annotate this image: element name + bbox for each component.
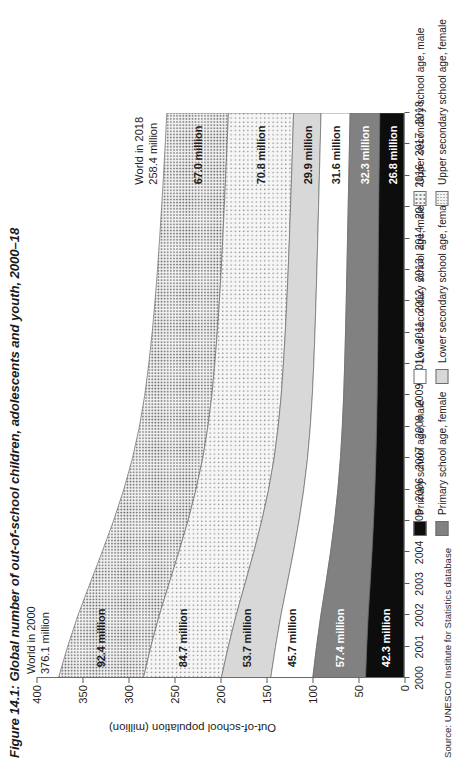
callout-world-2018: World in 2018258.4 million xyxy=(132,117,160,185)
legend-item[interactable]: Primary school age, male xyxy=(408,392,430,536)
series-end-value-label: 32.3 million xyxy=(358,126,370,185)
series-end-value-label: 70.8 million xyxy=(254,126,266,185)
y-tick-label: 250 xyxy=(168,685,180,704)
y-tick-label: 350 xyxy=(76,685,88,704)
x-tick-label: 2000 xyxy=(412,666,424,690)
chart-canvas: 050100150200250300350400 200020012002200… xyxy=(36,113,404,678)
legend-column: Lower secondary school age, maleLower se… xyxy=(408,197,452,384)
y-tick-label: 50 xyxy=(352,685,364,697)
legend-swatch-icon xyxy=(413,521,426,536)
x-tick-mark xyxy=(404,614,409,615)
series-start-value-label: 53.7 million xyxy=(240,609,252,668)
legend-label: Lower secondary school age, male xyxy=(414,206,425,363)
figure-page: Figure 14.1: Global number of out-of-sch… xyxy=(0,0,463,764)
series-start-value-label: 45.7 million xyxy=(285,609,297,668)
series-end-value-label: 31.6 million xyxy=(329,126,341,185)
y-tick-label: 200 xyxy=(214,685,226,704)
x-tick-mark xyxy=(404,551,409,552)
x-tick-label: 2002 xyxy=(412,603,424,627)
y-tick-mark xyxy=(404,678,405,683)
source-note: Source: UNESCO Institute for Statistics … xyxy=(441,548,452,758)
x-tick-mark xyxy=(404,677,409,678)
legend-item[interactable]: Lower secondary school age, male xyxy=(408,197,430,384)
y-tick-mark xyxy=(312,678,313,683)
legend-swatch-icon xyxy=(435,369,448,384)
y-tick-label: 100 xyxy=(306,685,318,704)
y-tick-label: 150 xyxy=(260,685,272,704)
y-tick-label: 300 xyxy=(122,685,134,704)
x-tick-mark xyxy=(404,583,409,584)
legend-swatch-icon xyxy=(413,191,426,206)
legend-item[interactable]: Upper secondary school age, female xyxy=(430,19,452,206)
callout-world-2018-line2: 258.4 million xyxy=(146,117,160,185)
legend-swatch-icon xyxy=(435,191,448,206)
legend-swatch-icon xyxy=(435,521,448,536)
y-tick-mark xyxy=(220,678,221,683)
legend-item[interactable]: Primary school age, female xyxy=(430,392,452,536)
y-tick-mark xyxy=(174,678,175,683)
y-tick-mark xyxy=(358,678,359,683)
series-end-value-label: 29.9 million xyxy=(301,126,313,185)
legend-label: Upper secondary school age, female xyxy=(436,19,447,185)
x-tick-label: 2003 xyxy=(412,572,424,596)
y-axis-title: Out-of-school population (million) xyxy=(42,722,342,734)
x-tick-mark xyxy=(404,646,409,647)
callout-world-2000: World in 2000376.1 million xyxy=(24,606,52,674)
x-tick-label: 2004 xyxy=(412,541,424,565)
y-tick-mark xyxy=(266,678,267,683)
legend-label: Upper secondary school age, male xyxy=(414,28,425,185)
stacked-area-series-group xyxy=(36,113,404,678)
series-end-value-label: 67.0 million xyxy=(191,126,203,185)
y-tick-mark xyxy=(36,678,37,683)
legend-swatch-icon xyxy=(413,369,426,384)
y-tick-label: 0 xyxy=(398,685,410,691)
rotated-figure: Figure 14.1: Global number of out-of-sch… xyxy=(0,0,463,764)
series-start-value-label: 92.4 million xyxy=(94,609,106,668)
y-tick-mark xyxy=(128,678,129,683)
legend-column: Upper secondary school age, maleUpper se… xyxy=(408,19,452,206)
x-tick-label: 2001 xyxy=(412,635,424,659)
legend-label: Primary school age, male xyxy=(414,400,425,515)
callout-world-2000-line2: 376.1 million xyxy=(38,606,52,674)
legend-column: Primary school age, malePrimary school a… xyxy=(408,392,452,536)
callout-world-2018-line1: World in 2018 xyxy=(132,117,144,185)
figure-title: Figure 14.1: Global number of out-of-sch… xyxy=(6,58,21,758)
series-start-value-label: 57.4 million xyxy=(333,609,345,668)
legend-item[interactable]: Upper secondary school age, male xyxy=(408,19,430,206)
legend-item[interactable]: Lower secondary school age, female xyxy=(430,197,452,384)
callout-world-2000-line1: World in 2000 xyxy=(24,606,36,674)
legend-label: Lower secondary school age, female xyxy=(436,197,447,363)
series-start-value-label: 84.7 million xyxy=(176,609,188,668)
y-tick-label: 400 xyxy=(30,685,42,704)
chart-legend: Primary school age, malePrimary school a… xyxy=(408,6,456,536)
series-end-value-label: 26.8 million xyxy=(386,126,398,185)
legend-label: Primary school age, female xyxy=(436,392,447,515)
series-start-value-label: 42.3 million xyxy=(379,609,391,668)
x-axis-line xyxy=(403,113,404,678)
chart-plot-area: 050100150200250300350400 200020012002200… xyxy=(36,113,404,678)
y-tick-mark xyxy=(82,678,83,683)
